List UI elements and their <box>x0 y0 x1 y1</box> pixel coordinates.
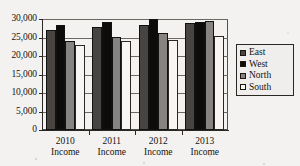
x-axis-category-label: 2013Income <box>175 136 235 158</box>
legend-label: West <box>249 60 268 70</box>
category-metric: Income <box>175 147 235 158</box>
legend-label: North <box>249 71 271 81</box>
y-axis-tick-label: 25,000 <box>11 33 37 43</box>
bar-west-2010 <box>56 25 66 130</box>
bar-east-2013 <box>185 23 195 130</box>
legend-item-north[interactable]: North <box>237 70 293 82</box>
bar-north-2012 <box>158 33 168 130</box>
y-axis-tick-label: 20,000 <box>11 51 37 61</box>
bar-chart: 05,00010,00015,00020,00025,00030,0002010… <box>0 0 300 166</box>
legend-swatch-icon <box>240 84 246 90</box>
chart-legend: EastWestNorthSouth <box>236 44 294 96</box>
bar-west-2012 <box>149 19 159 130</box>
category-year: 2013 <box>175 136 235 147</box>
y-axis-tick-label: 30,000 <box>11 14 37 24</box>
bar-east-2010 <box>46 30 56 130</box>
gridline <box>42 19 228 20</box>
y-axis-tick-label: 0 <box>32 125 37 135</box>
bar-east-2012 <box>139 25 149 130</box>
legend-item-south[interactable]: South <box>237 82 293 94</box>
bar-north-2011 <box>112 37 122 130</box>
y-axis-tick-label: 15,000 <box>11 70 37 80</box>
bar-east-2011 <box>92 27 102 130</box>
bar-north-2010 <box>65 41 75 130</box>
y-axis-tick-label: 10,000 <box>11 88 37 98</box>
legend-label: East <box>249 48 265 58</box>
bar-west-2011 <box>102 22 112 130</box>
x-axis-group-tick <box>135 131 136 135</box>
bar-south-2013 <box>214 36 224 130</box>
legend-swatch-icon <box>240 61 246 67</box>
legend-label: South <box>249 83 271 93</box>
y-axis-tick-label: 5,000 <box>16 107 37 117</box>
bar-west-2013 <box>195 22 205 130</box>
bar-north-2013 <box>205 21 215 130</box>
bar-south-2011 <box>121 41 131 130</box>
bar-south-2012 <box>168 40 178 130</box>
legend-swatch-icon <box>240 73 246 79</box>
legend-swatch-icon <box>240 50 246 56</box>
x-axis-group-tick <box>182 131 183 135</box>
bar-south-2010 <box>75 45 85 130</box>
legend-item-west[interactable]: West <box>237 59 293 71</box>
x-axis-group-tick <box>89 131 90 135</box>
y-axis-line <box>42 19 43 131</box>
legend-item-east[interactable]: East <box>237 47 293 59</box>
